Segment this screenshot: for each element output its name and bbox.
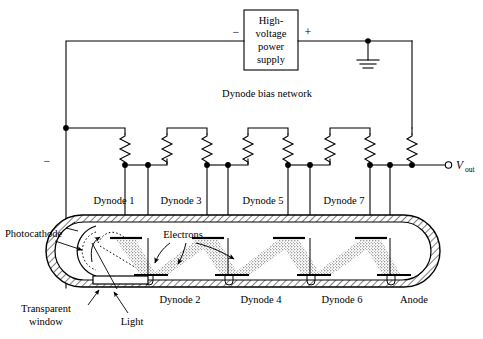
power-supply-line4: supply	[257, 54, 286, 65]
power-supply-line3: power	[258, 41, 285, 52]
rung-wire-3	[330, 128, 370, 134]
label-dynode-3: Dynode 3	[160, 195, 201, 206]
rung-wire-2	[248, 128, 288, 134]
transparent-window-group	[93, 276, 148, 284]
callout-photocathode-label: Photocathode	[5, 228, 62, 239]
label-dynode-5: Dynode 5	[242, 195, 283, 206]
vout-terminal-circle	[445, 162, 451, 168]
callout-electrons-label: Electrons	[163, 229, 203, 240]
callout-transparent-window-line1: Transparent	[21, 303, 71, 314]
transparent-window-rect	[93, 276, 148, 284]
pmt-schematic-svg: High- voltage power supply − + Dynode bi	[0, 0, 483, 339]
callout-light-arrow	[114, 292, 128, 313]
pmt-diagram-figure: High- voltage power supply − + Dynode bi	[0, 0, 483, 339]
vout-symbol: V	[456, 159, 465, 171]
resistor-3	[202, 134, 212, 164]
label-dynode-6: Dynode 6	[321, 294, 362, 305]
callout-transparent-window-line2: window	[29, 316, 63, 327]
resistor-8	[407, 134, 417, 164]
junction-dot-out	[409, 162, 415, 168]
callout-transparent-window-leader	[88, 290, 99, 305]
label-dynode-1: Dynode 1	[93, 195, 134, 206]
callout-light-label: Light	[121, 316, 144, 327]
power-supply-minus-terminal-label: −	[233, 25, 240, 39]
vout-subscript: out	[465, 165, 476, 174]
vout-label-group: V out	[456, 159, 476, 174]
negative-rail-wire	[66, 41, 244, 128]
power-supply-group: High- voltage power supply − +	[233, 10, 312, 70]
resistor-5	[283, 134, 293, 164]
top-electrode-labels-group: Dynode 1 Dynode 3 Dynode 5 Dynode 7	[93, 195, 364, 206]
resistor-7	[365, 134, 375, 164]
label-anode: Anode	[400, 294, 428, 305]
dynode-bias-network-label: Dynode bias network	[222, 88, 313, 99]
ground-icon	[357, 41, 379, 68]
rung-wire-0	[66, 128, 125, 134]
label-dynode-2: Dynode 2	[159, 294, 200, 305]
power-supply-line2: voltage	[256, 28, 287, 39]
label-dynode-7: Dynode 7	[323, 195, 364, 206]
transparent-window-callout-group: Transparent window	[21, 290, 99, 327]
resistor-1	[120, 134, 130, 164]
negative-terminal-label: −	[44, 154, 51, 168]
label-dynode-4: Dynode 4	[240, 294, 282, 305]
rung-wire-1	[167, 128, 207, 134]
power-supply-plus-terminal-label: +	[305, 25, 312, 39]
resistor-ladder-group	[63, 125, 452, 168]
power-supply-line1: High-	[259, 15, 284, 26]
bottom-electrode-labels-group: Dynode 2 Dynode 4 Dynode 6 Anode	[159, 294, 428, 305]
top-wiring-group	[66, 38, 412, 128]
